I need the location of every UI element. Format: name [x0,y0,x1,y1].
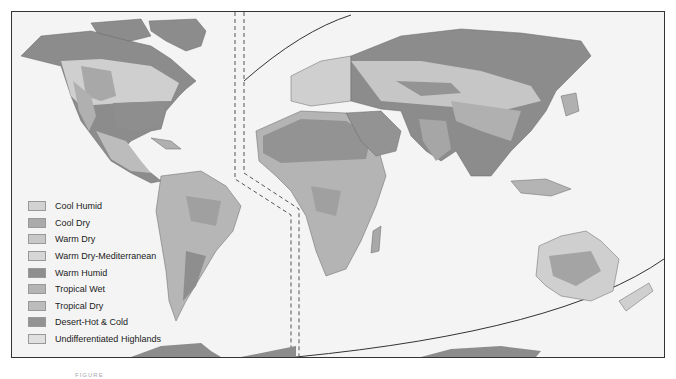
antarctica-mid [241,346,296,357]
legend-item: Desert-Hot & Cold [28,314,161,331]
legend-label: Warm Humid [55,268,107,278]
madagascar [371,226,381,253]
legend-label: Cool Humid [55,201,102,211]
legend-item: Warm Dry [28,231,161,248]
legend-item: Tropical Wet [28,281,161,298]
map-frame: Cool Humid Cool Dry Warm Dry Warm Dry-Me… [11,11,665,358]
legend-swatch [28,251,46,261]
legend-item: Warm Dry-Mediterranean [28,248,161,265]
greenland [149,19,206,51]
legend-label: Tropical Dry [55,301,103,311]
legend-item: Tropical Dry [28,298,161,315]
legend-label: Warm Dry [55,234,95,244]
europe [291,56,351,106]
new-zealand [619,283,653,311]
caribbean [151,138,181,149]
legend-label: Tropical Wet [55,284,105,294]
legend-item: Undifferentiated Highlands [28,331,161,348]
south-america [156,171,241,321]
legend-swatch [28,201,46,211]
legend-swatch [28,268,46,278]
indonesia [511,179,571,196]
legend-item: Cool Humid [28,198,161,215]
legend-swatch [28,218,46,228]
sa-warm-humid [183,251,206,301]
legend-label: Cool Dry [55,218,90,228]
legend-swatch [28,301,46,311]
legend-item: Warm Humid [28,264,161,281]
legend-label: Warm Dry-Mediterranean [55,251,156,261]
legend-label: Undifferentiated Highlands [55,334,161,344]
figure-caption: FIGURE [75,372,104,378]
legend-item: Cool Dry [28,215,161,232]
north-america [21,31,196,183]
legend-swatch [28,334,46,344]
interruption-line-1 [235,12,291,357]
legend-swatch [28,234,46,244]
legend-swatch [28,284,46,294]
legend-swatch [28,317,46,327]
japan [561,93,579,116]
map-legend: Cool Humid Cool Dry Warm Dry Warm Dry-Me… [28,198,161,347]
legend-label: Desert-Hot & Cold [55,317,128,327]
antarctica-right [421,346,541,357]
